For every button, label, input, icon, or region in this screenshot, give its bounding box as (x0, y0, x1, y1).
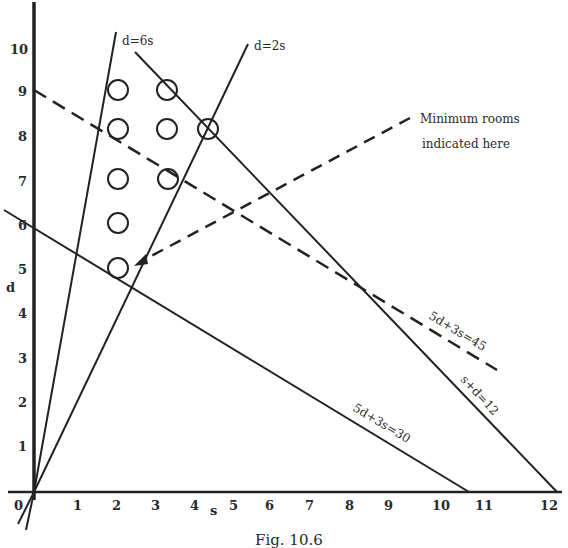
svg-text:12: 12 (540, 498, 558, 513)
label-d-6s: d=6s (122, 34, 154, 48)
line-5d-3s-30 (4, 210, 469, 492)
x-axis-label: s (210, 503, 217, 518)
annotation-arrow (140, 118, 410, 262)
svg-text:2: 2 (18, 395, 27, 410)
line-d-2s (34, 44, 248, 492)
svg-text:0: 0 (14, 498, 23, 513)
svg-text:10: 10 (10, 42, 28, 57)
svg-text:11: 11 (475, 498, 493, 513)
line-extension (26, 492, 34, 530)
line-5d-3s-45 (34, 90, 497, 370)
y-axis-label: d (6, 280, 15, 295)
point-2-7 (108, 169, 128, 189)
point-2-6 (108, 213, 128, 233)
point-3-8 (157, 119, 177, 139)
annotation-line2: indicated here (422, 137, 510, 151)
svg-text:8: 8 (18, 129, 27, 144)
svg-text:5: 5 (229, 498, 238, 513)
annotation-line1: Minimum rooms (420, 112, 520, 126)
arrowhead-icon (134, 254, 148, 266)
svg-text:1: 1 (18, 439, 27, 454)
svg-text:4: 4 (18, 306, 27, 321)
svg-text:3: 3 (18, 351, 27, 366)
label-d-2s: d=2s (254, 39, 286, 53)
point-2-8 (108, 119, 128, 139)
y-tick-labels: 1 2 3 4 5 6 7 8 9 10 (10, 42, 28, 454)
svg-text:9: 9 (18, 84, 27, 99)
svg-text:2: 2 (112, 498, 121, 513)
svg-text:1: 1 (73, 498, 82, 513)
svg-text:7: 7 (18, 174, 27, 189)
svg-text:9: 9 (384, 498, 393, 513)
svg-text:5: 5 (18, 262, 27, 277)
svg-text:6: 6 (265, 498, 274, 513)
line-d-6s (34, 32, 116, 492)
svg-text:8: 8 (345, 498, 354, 513)
feasible-points (108, 80, 218, 278)
point-2-9 (108, 80, 128, 100)
point-2-5 (108, 258, 128, 278)
chart: 0 1 2 3 4 5 6 7 8 9 10 11 12 s 1 2 3 4 5… (0, 0, 568, 548)
svg-text:7: 7 (305, 498, 314, 513)
svg-text:10: 10 (432, 498, 450, 513)
svg-text:4: 4 (190, 498, 199, 513)
svg-text:3: 3 (151, 498, 160, 513)
figure-caption: Fig. 10.6 (255, 531, 323, 548)
point-3-9 (157, 80, 177, 100)
x-tick-labels: 0 1 2 3 4 5 6 7 8 9 10 11 12 (14, 498, 558, 513)
